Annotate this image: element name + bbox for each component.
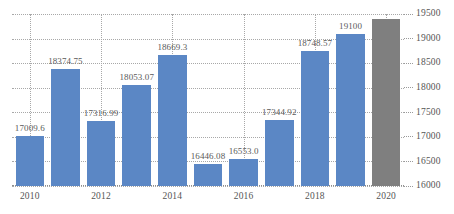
y-axis-tick-mark (404, 136, 413, 137)
bar[interactable] (87, 121, 116, 186)
bars-layer: 17009.618374.7517316.9918053.0718669.316… (12, 14, 404, 186)
bar[interactable] (16, 136, 45, 186)
bar[interactable] (229, 159, 258, 186)
y-axis-tick-mark (404, 161, 413, 162)
bar[interactable] (301, 51, 330, 186)
bar-value-label: 17316.99 (84, 109, 119, 118)
y-axis-tick-label: 19000 (416, 33, 441, 43)
y-axis-tick-mark (404, 87, 413, 88)
x-axis-tick-label: 2010 (20, 191, 40, 201)
y-axis-tick-label: 17000 (416, 132, 441, 142)
bar-value-label: 18748.57 (298, 39, 333, 48)
x-axis-tick-label: 2014 (162, 191, 182, 201)
bar[interactable] (51, 69, 80, 186)
x-axis-tick-label: 2016 (234, 191, 254, 201)
bar[interactable] (336, 34, 365, 186)
y-axis-tick-label: 19500 (416, 9, 441, 19)
y-axis-tick-label: 18500 (416, 58, 441, 68)
y-axis-tick-mark (404, 38, 413, 39)
bar[interactable] (265, 120, 294, 186)
y-axis-tick-label: 18000 (416, 82, 441, 92)
y-axis-tick-label: 17500 (416, 107, 441, 117)
y-axis-tick-mark (404, 112, 413, 113)
bar-value-label: 18669.3 (157, 43, 187, 52)
y-axis: 1600016500170001750018000185001900019500 (404, 14, 454, 186)
bar[interactable] (122, 85, 151, 186)
bar-value-label: 18374.75 (48, 57, 83, 66)
y-axis-tick-mark (404, 186, 413, 187)
bar-value-label: 16553.0 (229, 147, 259, 156)
bar-value-label: 19100 (339, 22, 362, 31)
x-axis-tick-label: 2020 (376, 191, 396, 201)
bar[interactable] (372, 19, 401, 186)
x-axis-tick-label: 2012 (91, 191, 111, 201)
bar-value-label: 18053.07 (119, 73, 154, 82)
bar-chart: 17009.618374.7517316.9918053.0718669.316… (0, 0, 454, 214)
plot-area: 17009.618374.7517316.9918053.0718669.316… (12, 14, 404, 186)
bar-value-label: 17009.6 (15, 124, 45, 133)
bar[interactable] (158, 55, 187, 186)
bar-value-label: 16446.08 (191, 152, 226, 161)
y-axis-tick-label: 16000 (416, 181, 441, 191)
y-axis-tick-mark (404, 14, 413, 15)
y-axis-tick-mark (404, 63, 413, 64)
x-axis-tick-label: 2018 (305, 191, 325, 201)
bar-value-label: 17344.92 (262, 108, 297, 117)
x-axis: 201020122014201620182020 (12, 188, 404, 208)
gridline-horizontal (12, 186, 404, 187)
bar[interactable] (194, 164, 223, 186)
y-axis-tick-label: 16500 (416, 156, 441, 166)
